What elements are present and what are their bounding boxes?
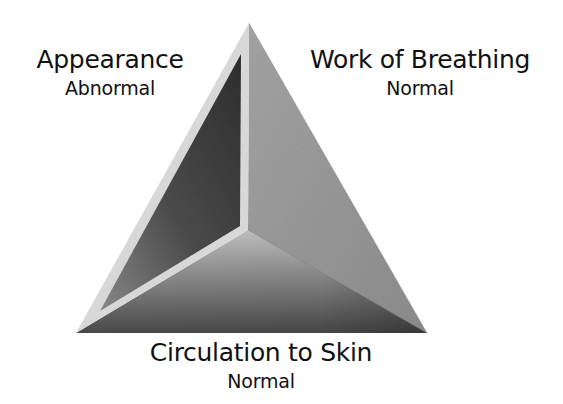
appearance-status: Abnormal: [22, 79, 198, 98]
circulation-to-skin-status: Normal: [132, 372, 390, 391]
label-circulation-to-skin: Circulation to Skin Normal: [132, 340, 390, 391]
label-appearance: Appearance Abnormal: [22, 47, 198, 98]
work-of-breathing-title: Work of Breathing: [296, 47, 544, 72]
appearance-title: Appearance: [22, 47, 198, 72]
label-work-of-breathing: Work of Breathing Normal: [296, 47, 544, 98]
circulation-to-skin-title: Circulation to Skin: [132, 340, 390, 365]
work-of-breathing-status: Normal: [296, 79, 544, 98]
pediatric-assessment-triangle: Appearance Abnormal Work of Breathing No…: [0, 0, 563, 404]
